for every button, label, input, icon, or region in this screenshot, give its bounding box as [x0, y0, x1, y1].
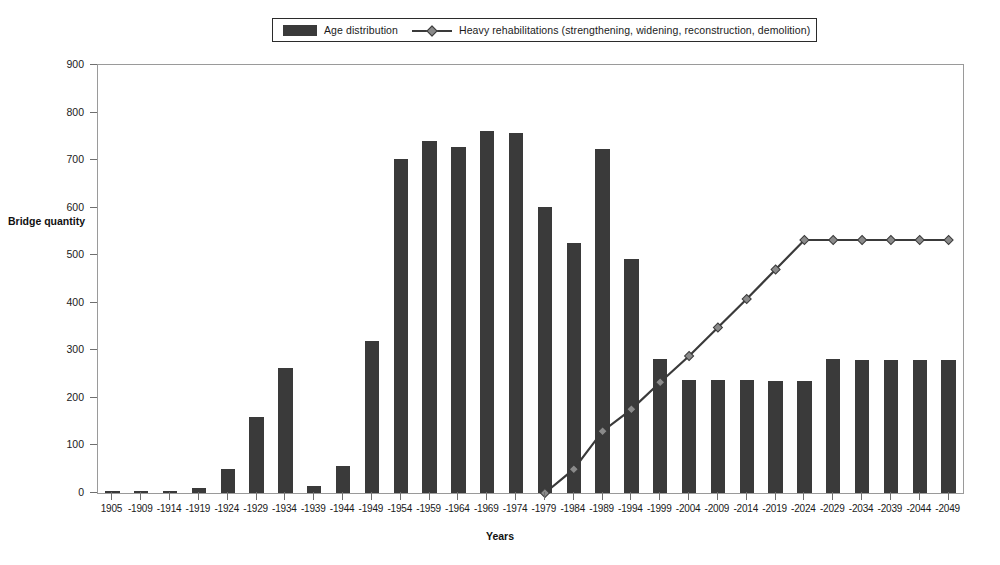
x-tick-mark — [256, 492, 257, 500]
x-tick-mark — [400, 492, 401, 500]
x-axis-title: Years — [0, 530, 1000, 542]
x-tick-label: -2019 — [762, 503, 787, 514]
x-tick-mark — [544, 492, 545, 500]
x-tick-label: -1979 — [532, 503, 557, 514]
x-tick-mark — [688, 492, 689, 500]
plot-area — [97, 64, 964, 494]
x-tick-mark — [746, 492, 747, 500]
x-tick-label: -1959 — [416, 503, 441, 514]
x-tick-mark — [602, 492, 603, 500]
x-tick-mark — [111, 492, 112, 500]
y-tick-label: 400 — [0, 296, 97, 308]
x-tick-label: -2009 — [705, 503, 730, 514]
legend-label-age-distribution: Age distribution — [324, 24, 398, 36]
x-tick-label: -1984 — [560, 503, 585, 514]
y-tick-label: 800 — [0, 106, 97, 118]
x-tick-label: -1989 — [589, 503, 614, 514]
x-tick-label: -1949 — [359, 503, 384, 514]
x-tick-mark — [140, 492, 141, 500]
x-tick-label: -1969 — [474, 503, 499, 514]
x-tick-label: -1914 — [157, 503, 182, 514]
x-tick-label: -1939 — [301, 503, 326, 514]
x-tick-mark — [775, 492, 776, 500]
chart-legend: Age distribution Heavy rehabilitations (… — [272, 18, 817, 42]
x-tick-mark — [169, 492, 170, 500]
legend-item-age-distribution: Age distribution — [283, 24, 398, 36]
x-tick-label: -1944 — [330, 503, 355, 514]
line-marker — [886, 235, 895, 244]
bar-swatch-icon — [283, 25, 317, 36]
x-tick-label: -1934 — [272, 503, 297, 514]
x-tick-label: -1919 — [186, 503, 211, 514]
x-tick-label: -1999 — [647, 503, 672, 514]
line-marker — [858, 235, 867, 244]
y-axis-title: Bridge quantity — [8, 215, 85, 227]
x-tick-mark — [429, 492, 430, 500]
x-tick-mark — [861, 492, 862, 500]
x-axis-labels: 1905-1909-1914-1919-1924-1929-1934-1939-… — [97, 503, 962, 523]
x-tick-mark — [486, 492, 487, 500]
x-tick-mark — [573, 492, 574, 500]
x-tick-label: -2044 — [906, 503, 931, 514]
x-tick-label: -2039 — [878, 503, 903, 514]
y-tick-label: 300 — [0, 343, 97, 355]
x-axis-ticks — [97, 492, 962, 501]
x-tick-mark — [198, 492, 199, 500]
x-tick-label: -1924 — [214, 503, 239, 514]
legend-item-heavy-rehabilitations: Heavy rehabilitations (strengthening, wi… — [412, 24, 810, 36]
x-tick-mark — [832, 492, 833, 500]
x-tick-label: -1929 — [243, 503, 268, 514]
x-tick-label: -1954 — [387, 503, 412, 514]
x-tick-label: -2029 — [820, 503, 845, 514]
x-tick-label: 1905 — [101, 503, 122, 514]
line-marker — [829, 235, 838, 244]
x-tick-mark — [890, 492, 891, 500]
x-tick-label: -2024 — [791, 503, 816, 514]
y-tick-label: 0 — [0, 486, 97, 498]
x-tick-mark — [457, 492, 458, 500]
line-marker — [915, 235, 924, 244]
x-tick-mark — [803, 492, 804, 500]
y-tick-label: 200 — [0, 391, 97, 403]
y-tick-label: 500 — [0, 248, 97, 260]
x-tick-label: -2004 — [676, 503, 701, 514]
x-tick-mark — [313, 492, 314, 500]
x-tick-mark — [371, 492, 372, 500]
chart-page: Age distribution Heavy rehabilitations (… — [0, 0, 1000, 565]
x-tick-mark — [659, 492, 660, 500]
x-tick-label: -1964 — [445, 503, 470, 514]
x-tick-mark — [948, 492, 949, 500]
y-tick-label: 900 — [0, 58, 97, 70]
x-tick-mark — [227, 492, 228, 500]
x-tick-mark — [717, 492, 718, 500]
x-tick-label: -1994 — [618, 503, 643, 514]
y-tick-label: 700 — [0, 153, 97, 165]
x-tick-label: -1909 — [128, 503, 153, 514]
x-tick-mark — [284, 492, 285, 500]
x-tick-label: -2049 — [935, 503, 960, 514]
line-series-heavy-rehabilitations — [98, 65, 963, 493]
x-tick-label: -2014 — [733, 503, 758, 514]
line-marker — [944, 235, 953, 244]
y-tick-label: 100 — [0, 438, 97, 450]
y-tick-label: 600 — [0, 201, 97, 213]
line-diamond-icon — [412, 25, 452, 36]
x-tick-mark — [630, 492, 631, 500]
y-axis: 0100200300400500600700800900 — [0, 56, 97, 504]
x-tick-mark — [919, 492, 920, 500]
x-tick-mark — [515, 492, 516, 500]
legend-label-heavy-rehabilitations: Heavy rehabilitations (strengthening, wi… — [459, 24, 810, 36]
x-tick-mark — [342, 492, 343, 500]
x-tick-label: -1974 — [503, 503, 528, 514]
x-tick-label: -2034 — [849, 503, 874, 514]
